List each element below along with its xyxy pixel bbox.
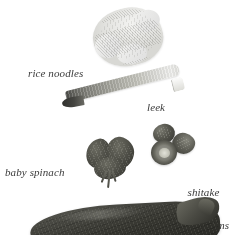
- rice-noodles-image: [93, 8, 163, 66]
- label-leek: leek: [147, 102, 165, 113]
- leek-cut-end: [171, 77, 186, 93]
- baby-spinach-image: [84, 137, 138, 189]
- leek-dark-end: [61, 95, 84, 109]
- ingredient-photo-board: rice noodles leek baby spinach shitake m…: [0, 0, 237, 235]
- mushroom-cap-gills: [151, 140, 177, 165]
- meat-slab-image: [30, 198, 230, 235]
- shitake-mushrooms-image: [148, 124, 196, 168]
- spinach-stem-center: [107, 170, 111, 188]
- label-baby-spinach: baby spinach: [5, 167, 65, 178]
- leek-image: [62, 73, 184, 115]
